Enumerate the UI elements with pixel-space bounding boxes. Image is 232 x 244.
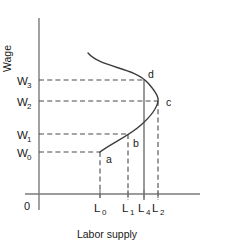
- y-tick-w3: W 3: [17, 75, 32, 90]
- y-tick-w0: W 0: [17, 147, 32, 162]
- vertical-guides: [100, 80, 158, 200]
- x-tick-l1: L 1: [122, 202, 135, 217]
- x-tick-l2-text: L: [152, 202, 159, 214]
- y-tick-w2-sub: 2: [27, 102, 32, 111]
- x-tick-l0-text: L: [94, 202, 101, 214]
- y-axis-title: Wage: [1, 45, 13, 72]
- x-tick-l0: L 0: [94, 202, 107, 217]
- point-label-a: a: [106, 153, 112, 165]
- x-tick-l2-sub: 2: [160, 208, 165, 217]
- x-axis-title: Labor supply: [77, 228, 138, 240]
- x-tick-l2: L 2: [152, 202, 165, 217]
- x-tick-l4-sub: 4: [146, 208, 151, 217]
- x-tick-labels: L 0 L 1 L 4 L 2: [94, 202, 165, 217]
- y-tick-w1-sub: 1: [27, 135, 32, 144]
- origin-label: 0: [24, 200, 30, 212]
- y-tick-w1: W 1: [17, 129, 32, 144]
- point-label-b: b: [133, 137, 139, 149]
- y-tick-w2: W 2: [17, 96, 32, 111]
- labor-supply-chart: a b c d W 3 W 2 W 1 W 0: [0, 0, 232, 244]
- chart-svg: a b c d W 3 W 2 W 1 W 0: [0, 0, 232, 244]
- horizontal-guides: [39, 80, 158, 152]
- x-tick-l1-sub: 1: [130, 208, 135, 217]
- x-tick-l1-text: L: [122, 202, 129, 214]
- x-tick-l4: L 4: [138, 202, 151, 217]
- point-label-c: c: [166, 96, 171, 108]
- y-tick-labels: W 3 W 2 W 1 W 0: [17, 75, 32, 162]
- x-tick-l4-text: L: [138, 202, 145, 214]
- y-tick-w0-sub: 0: [27, 153, 32, 162]
- x-tick-l0-sub: 0: [102, 208, 107, 217]
- point-label-d: d: [148, 68, 154, 80]
- y-tick-w3-sub: 3: [27, 81, 32, 90]
